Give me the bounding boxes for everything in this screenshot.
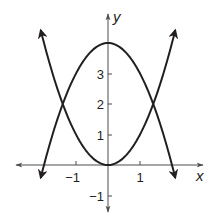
y-ticks bbox=[108, 74, 112, 196]
y-tick-label-2: 2 bbox=[97, 97, 104, 112]
graph-svg: −1 1 3 2 1 −1 x y bbox=[0, 0, 212, 223]
x-tick-label-neg1: −1 bbox=[65, 170, 80, 185]
x-tick-label-1: 1 bbox=[136, 170, 143, 185]
y-tick-label-3: 3 bbox=[97, 67, 104, 82]
y-tick-label-1: 1 bbox=[97, 128, 104, 143]
y-tick-label-neg1: −1 bbox=[89, 189, 104, 204]
y-axis-label: y bbox=[112, 8, 122, 25]
graph-figure: −1 1 3 2 1 −1 x y bbox=[0, 0, 212, 223]
x-axis-label: x bbox=[195, 167, 204, 184]
